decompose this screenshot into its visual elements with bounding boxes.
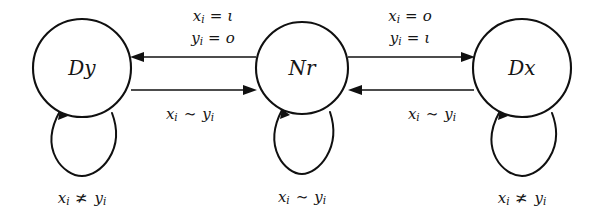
self-loop-label-nr: xi∼yi [278,188,326,206]
edge-label-nr-to-dy-line1-val: ι [227,7,233,25]
edge-nr-to-dx[interactable] [348,52,475,62]
edge-label-nr-to-dx-line2-op: = [407,29,420,47]
self-loop-label-dy-text: xi≭yi [58,189,107,207]
edge-label-dx-to-nr: xi∼yi [408,105,456,123]
edge-label-nr-to-dx-line1: xi=o [388,7,431,25]
self-loop-label-dx-val-sub: i [543,195,546,207]
node-nr[interactable]: Nr [256,22,348,114]
edge-nr-to-dy-arrowhead [130,52,144,62]
self-loop-label-dy: xi≭yi [58,189,107,207]
edge-dx-to-nr[interactable] [348,85,474,95]
self-loop-dy [52,110,116,176]
self-loop-dy-path [52,111,116,176]
edge-label-nr-to-dy-line1-op: = [210,7,223,25]
self-loop-label-dx-sub: i [506,195,509,207]
edge-label-nr-to-dy-line2-val: o [226,29,235,47]
self-loop-dx [492,110,556,176]
edge-label-dy-to-nr-val-sub: i [211,111,214,123]
edge-label-dy-to-nr: xi∼yi [166,105,214,123]
node-dy[interactable]: Dy [33,19,131,117]
edge-label-nr-to-dx-line1-sub: i [397,13,400,25]
edge-label-nr-to-dx-line2-val: ι [424,29,430,47]
edge-dy-to-nr-arrowhead [243,85,257,95]
node-dx[interactable]: Dx [473,19,571,117]
self-loop-label-dy-sub: i [66,195,69,207]
self-loop-label-dy-op: ≭ [75,189,88,207]
edge-label-nr-to-dy-line1: xi=ι [193,7,233,25]
edge-dx-to-nr-arrowhead [348,85,362,95]
edge-label-dy-to-nr-op: ∼ [184,105,197,123]
self-loop-label-dx-text: xi≭yi [498,189,547,207]
self-loop-dx-path [492,111,556,176]
self-loop-label-nr-sub: i [286,194,289,206]
edge-label-dx-to-nr-val-sub: i [453,111,456,123]
node-dy-label: Dy [67,56,96,80]
self-loop-label-nr-val-sub: i [323,194,326,206]
edge-label-nr-to-dy-line2-op: = [208,29,221,47]
state-transition-diagram: Dy Nr Dx [0,0,604,217]
self-loop-label-dy-val-sub: i [103,195,106,207]
edge-label-nr-to-dy-line2-sub: i [200,35,203,47]
self-loop-label-dx: xi≭yi [498,189,547,207]
edge-label-nr-to-dx-line2: yi=ι [389,29,430,47]
edge-label-dx-to-nr-sub: i [416,111,419,123]
edge-dy-to-nr[interactable] [131,85,257,95]
edge-label-dx-to-nr-op: ∼ [426,105,439,123]
edge-label-nr-to-dx: xi=o yi=ι [388,7,431,47]
node-dx-label: Dx [507,56,535,80]
node-nr-label: Nr [287,56,317,80]
edge-label-nr-to-dy-line1-sub: i [201,13,204,25]
edge-label-dy-to-nr-sub: i [174,111,177,123]
edge-label-dx-to-nr-text: xi∼yi [408,105,456,123]
edge-label-nr-to-dy-line2: yi=o [190,29,234,47]
edge-label-nr-to-dx-line1-op: = [405,7,418,25]
edge-label-nr-to-dx-line1-val: o [423,7,432,25]
edge-label-nr-to-dy: xi=ι yi=o [190,7,234,47]
self-loop-nr [274,109,333,174]
self-loop-label-nr-op: ∼ [296,188,309,206]
edge-label-dy-to-nr-text: xi∼yi [166,105,214,123]
self-loop-label-nr-text: xi∼yi [278,188,326,206]
self-loop-nr-path [274,110,333,174]
self-loop-label-dx-op: ≭ [515,189,528,207]
edge-nr-to-dy[interactable] [130,52,256,62]
state-diagram-container: Dy Nr Dx [0,0,604,217]
edge-label-nr-to-dx-line2-sub: i [398,35,401,47]
